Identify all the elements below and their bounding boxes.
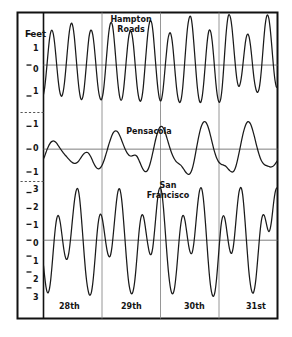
panel-label-hampton-line1: Hampton — [103, 16, 159, 24]
xtick-label-day-30: 30th — [184, 303, 205, 311]
ytick-p2-0: 1 — [33, 121, 39, 129]
panel-label-hampton-line2: Roads — [103, 26, 159, 34]
ytick-p3-3: 0 — [33, 240, 39, 248]
ytick-p3-4: 1 — [33, 258, 39, 266]
tide-chart-plot — [0, 0, 292, 337]
ytick-p2-2: 1 — [33, 169, 39, 177]
ytick-p2-1: 0 — [33, 145, 39, 153]
ytick-p1-0: 1 — [33, 45, 39, 53]
tide-curve-figure: Feet 1 0 1 1 0 1 3 2 1 0 1 2 3 Hampton R… — [0, 0, 292, 337]
ytick-p3-0: 3 — [33, 186, 39, 194]
ytick-p1-1: 0 — [33, 66, 39, 74]
xtick-label-day-29: 29th — [121, 303, 142, 311]
ytick-p3-5: 2 — [33, 276, 39, 284]
ytick-p3-6: 3 — [33, 294, 39, 302]
ytick-p3-2: 1 — [33, 222, 39, 230]
ytick-p1-2: 1 — [33, 88, 39, 96]
y-axis-unit-label: Feet — [25, 30, 46, 39]
xtick-label-day-31: 31st — [246, 303, 266, 311]
ytick-p3-1: 2 — [33, 204, 39, 212]
xtick-label-day-28: 28th — [59, 303, 80, 311]
panel-label-sf-line1: San — [140, 182, 196, 190]
panel-label-sf-line2: Francisco — [140, 192, 196, 200]
panel-label-pensacola: Pensacola — [119, 128, 179, 136]
